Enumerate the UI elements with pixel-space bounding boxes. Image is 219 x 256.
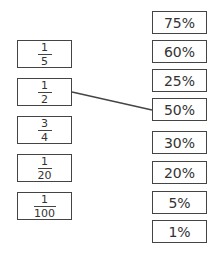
numerator: 1: [41, 156, 48, 167]
fraction-card-1-5[interactable]: 1 5: [17, 40, 72, 68]
numerator: 1: [41, 194, 48, 205]
percent-card-20[interactable]: 20%: [152, 161, 207, 184]
percent-card-5[interactable]: 5%: [152, 191, 207, 214]
percent-card-1[interactable]: 1%: [152, 220, 207, 243]
numerator: 3: [41, 118, 48, 129]
denominator: 100: [34, 208, 55, 219]
percent-card-60[interactable]: 60%: [152, 40, 207, 63]
percent-card-75[interactable]: 75%: [152, 11, 207, 34]
denominator: 20: [38, 170, 52, 181]
fraction-card-1-100[interactable]: 1 100: [17, 192, 72, 220]
fraction-card-3-4[interactable]: 3 4: [17, 116, 72, 144]
percent-card-50[interactable]: 50%: [152, 98, 207, 121]
denominator: 2: [41, 94, 48, 105]
percent-card-30[interactable]: 30%: [152, 131, 207, 154]
fraction-card-1-2[interactable]: 1 2: [17, 78, 72, 106]
denominator: 5: [41, 56, 48, 67]
numerator: 1: [41, 80, 48, 91]
denominator: 4: [41, 132, 48, 143]
percent-card-25[interactable]: 25%: [152, 69, 207, 92]
fraction-card-1-20[interactable]: 1 20: [17, 154, 72, 182]
numerator: 1: [41, 42, 48, 53]
